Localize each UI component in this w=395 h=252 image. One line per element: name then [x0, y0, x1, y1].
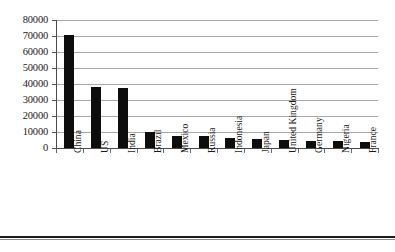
x-axis-label-text: India [127, 133, 137, 153]
bottom-divider-rule [0, 236, 395, 238]
x-axis-label-text: Brazil [153, 130, 163, 153]
x-axis-label-text: Germany [314, 117, 324, 153]
x-axis-tick [137, 149, 138, 153]
x-axis-label-text: Indonesia [234, 116, 244, 153]
y-axis-tick-label: 40000 [0, 79, 48, 90]
x-axis-label: Brazil [153, 153, 154, 154]
y-axis-tick-label: 50000 [0, 63, 48, 74]
x-axis-label-text: United Kingdom [288, 88, 298, 153]
x-axis-tick [190, 149, 191, 153]
x-axis-label: United Kingdom [288, 153, 289, 154]
y-axis-tick-label: 80000 [0, 15, 48, 26]
y-axis-tick-label: 60000 [0, 47, 48, 58]
x-axis-tick [244, 149, 245, 153]
y-axis-tick-label: 30000 [0, 95, 48, 106]
x-axis-label: India [127, 153, 128, 154]
x-axis-label: Indonesia [234, 153, 235, 154]
x-axis-tick [217, 149, 218, 153]
x-axis-label-text: Mexico [180, 124, 190, 153]
bar [91, 87, 101, 148]
y-axis-tick-label: 70000 [0, 31, 48, 42]
x-axis-label-text: US [100, 141, 110, 153]
x-axis-tick [163, 149, 164, 153]
x-axis-label-text: Japan [261, 131, 271, 153]
bar-chart-figure: 0100002000030000400005000060000700008000… [0, 0, 395, 252]
x-axis-label: US [100, 153, 101, 154]
x-axis-label: Germany [314, 153, 315, 154]
x-axis-label: France [368, 153, 369, 154]
bottom-divider-hairline [0, 239, 395, 240]
x-axis-label-text: Russia [207, 127, 217, 153]
x-axis-label: Russia [207, 153, 208, 154]
x-axis-tick [351, 149, 352, 153]
x-axis-tick [110, 149, 111, 153]
x-axis-tick [271, 149, 272, 153]
x-axis-label: Japan [261, 153, 262, 154]
y-axis-tick-label: 20000 [0, 111, 48, 122]
plot-area [56, 20, 378, 148]
x-axis-label: Nigeria [341, 153, 342, 154]
x-axis-tick [83, 149, 84, 153]
x-axis-label-text: France [368, 127, 378, 153]
x-axis-label-text: China [73, 130, 83, 153]
x-axis-tick [324, 149, 325, 153]
x-axis-label: Mexico [180, 153, 181, 154]
x-axis-tick [378, 149, 379, 153]
x-axis-label-text: Nigeria [341, 124, 351, 153]
y-axis-tick-label: 0 [0, 143, 48, 154]
y-axis-tick-label: 10000 [0, 127, 48, 138]
x-axis-label: China [73, 153, 74, 154]
x-axis-tick [298, 149, 299, 153]
x-axis-tick [56, 149, 57, 153]
